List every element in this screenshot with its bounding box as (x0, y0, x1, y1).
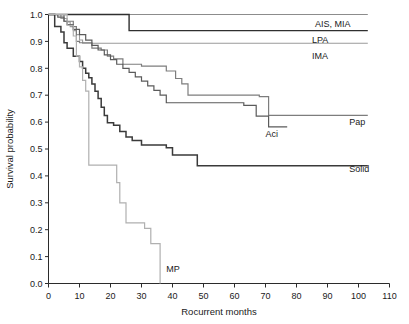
y-tick-label: 0.1 (30, 252, 43, 262)
x-tick-label: 50 (198, 291, 208, 301)
y-tick-label: 0.5 (30, 144, 43, 154)
x-tick-label: 30 (136, 291, 146, 301)
series-label-lpa: LPA (312, 35, 328, 45)
y-tick-label: 0.0 (30, 279, 43, 289)
x-tick-label: 0 (46, 291, 51, 301)
series-label-ais-mia: AIS, MIA (315, 19, 351, 29)
y-tick-label: 0.4 (30, 171, 43, 181)
axes-group: 0.00.10.20.30.40.50.60.70.80.91.00102030… (4, 10, 397, 317)
x-axis-title: Rocurrent months (181, 306, 257, 317)
series-label-mp: MP (166, 264, 180, 274)
x-tick-label: 70 (260, 291, 270, 301)
x-tick-label: 100 (351, 291, 366, 301)
series-label-solid: Solid (349, 164, 369, 174)
series-label-pap: Pap (349, 117, 365, 127)
x-tick-label: 10 (74, 291, 84, 301)
x-tick-label: 110 (382, 291, 396, 301)
x-tick-label: 80 (291, 291, 301, 301)
survival-curve-figure: 0.00.10.20.30.40.50.60.70.80.91.00102030… (0, 0, 409, 324)
chart-canvas: 0.00.10.20.30.40.50.60.70.80.91.00102030… (0, 0, 409, 324)
y-tick-label: 0.7 (30, 90, 43, 100)
x-tick-label: 60 (229, 291, 239, 301)
y-axis-title: Survival probability (4, 109, 15, 189)
x-tick-label: 40 (167, 291, 177, 301)
series-label-ima: IMA (312, 51, 328, 61)
series-line-pap (49, 15, 368, 116)
y-tick-label: 0.2 (30, 225, 43, 235)
x-tick-label: 90 (322, 291, 332, 301)
y-tick-label: 0.3 (30, 198, 43, 208)
series-label-aci: Aci (266, 129, 279, 139)
y-tick-label: 0.9 (30, 37, 43, 47)
series-labels-group: AIS, MIALPAIMAPapAciSolidMP (166, 19, 369, 274)
y-tick-label: 0.6 (30, 117, 43, 127)
y-tick-label: 1.0 (30, 10, 43, 20)
y-tick-label: 0.8 (30, 64, 43, 74)
x-tick-label: 20 (105, 291, 115, 301)
